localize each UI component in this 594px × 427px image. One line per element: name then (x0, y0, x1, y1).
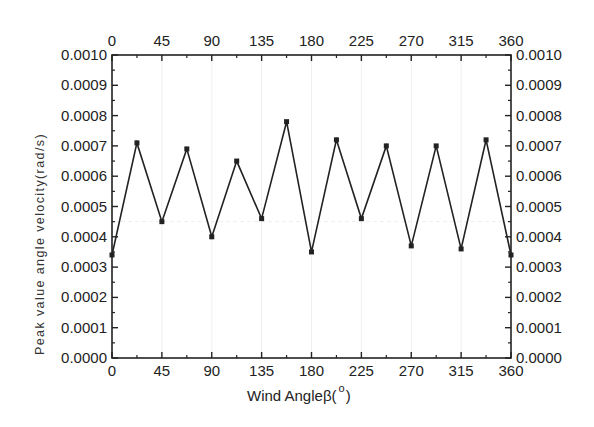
y-tick-label-right: 0.0004 (516, 228, 562, 245)
x-tick-label-top: 90 (203, 32, 220, 49)
data-point-marker (110, 252, 115, 257)
data-point-marker (484, 137, 489, 142)
x-tick-label-bottom: 180 (299, 362, 324, 379)
data-point-marker (459, 246, 464, 251)
data-point-marker (134, 140, 139, 145)
x-tick-label-bottom: 90 (203, 362, 220, 379)
y-tick-label-right: 0.0003 (516, 258, 562, 275)
y-tick-label-right: 0.0001 (516, 319, 562, 336)
y-tick-label-right: 0.0000 (516, 349, 562, 366)
y-tick-label-left: 0.0002 (61, 288, 107, 305)
x-tick-label-top: 180 (299, 32, 324, 49)
data-point-marker (159, 219, 164, 224)
y-tick-label-right: 0.0005 (516, 198, 562, 215)
data-point-marker (359, 216, 364, 221)
x-axis-title: Wind Angleβ(o) (247, 382, 351, 404)
x-tick-label-bottom: 135 (249, 362, 274, 379)
x-tick-label-top: 270 (399, 32, 424, 49)
y-tick-label-left: 0.0005 (61, 198, 107, 215)
data-point-marker (259, 216, 264, 221)
x-tick-label-top: 315 (449, 32, 474, 49)
y-tick-label-right: 0.0007 (516, 137, 562, 154)
x-tick-label-top: 0 (108, 32, 116, 49)
x-axis-title-close: ) (346, 387, 351, 404)
line-chart: 0045459090135135180180225225270270315315… (0, 0, 594, 427)
data-point-marker (509, 252, 514, 257)
y-tick-label-left: 0.0001 (61, 319, 107, 336)
data-point-marker (309, 249, 314, 254)
x-tick-label-top: 225 (349, 32, 374, 49)
data-point-marker (409, 243, 414, 248)
x-tick-label-bottom: 0 (108, 362, 116, 379)
y-tick-label-left: 0.0003 (61, 258, 107, 275)
y-tick-label-left: 0.0000 (61, 349, 107, 366)
y-tick-label-left: 0.0006 (61, 167, 107, 184)
data-point-marker (384, 143, 389, 148)
x-tick-label-top: 45 (154, 32, 171, 49)
y-tick-label-left: 0.0009 (61, 76, 107, 93)
y-tick-label-right: 0.0002 (516, 288, 562, 305)
y-tick-label-left: 0.0008 (61, 107, 107, 124)
y-tick-label-left: 0.0010 (61, 46, 107, 63)
faint-gridlines (114, 57, 509, 356)
degree-symbol: o (339, 382, 345, 394)
data-point-marker (434, 143, 439, 148)
y-tick-label-right: 0.0008 (516, 107, 562, 124)
data-point-marker (284, 119, 289, 124)
data-point-marker (209, 234, 214, 239)
x-tick-label-top: 135 (249, 32, 274, 49)
y-tick-label-left: 0.0004 (61, 228, 107, 245)
y-tick-label-right: 0.0006 (516, 167, 562, 184)
data-point-marker (234, 159, 239, 164)
x-tick-label-bottom: 315 (449, 362, 474, 379)
x-tick-label-bottom: 225 (349, 362, 374, 379)
y-axis-title: Peak value angle velocity(rad/s) (33, 133, 47, 355)
y-tick-label-left: 0.0007 (61, 137, 107, 154)
y-tick-label-right: 0.0010 (516, 46, 562, 63)
data-point-marker (334, 137, 339, 142)
x-axis-title-main: Wind Angleβ( (247, 387, 337, 404)
y-tick-label-right: 0.0009 (516, 76, 562, 93)
x-tick-label-bottom: 45 (154, 362, 171, 379)
data-point-marker (184, 146, 189, 151)
x-tick-label-bottom: 270 (399, 362, 424, 379)
